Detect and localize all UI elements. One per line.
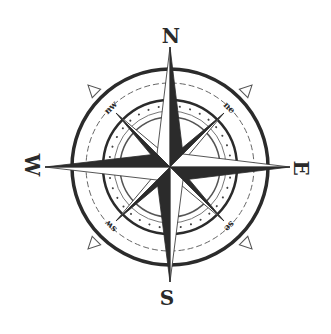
cardinal-points bbox=[45, 47, 290, 282]
label-west: W bbox=[20, 153, 44, 177]
label-north: N bbox=[162, 24, 180, 48]
label-south: S bbox=[160, 286, 174, 310]
compass-rose-icon: ne se sw nw N E S W bbox=[0, 0, 331, 334]
label-east: E bbox=[289, 160, 313, 175]
compass-rose-figure: ne se sw nw N E S W bbox=[0, 0, 331, 334]
